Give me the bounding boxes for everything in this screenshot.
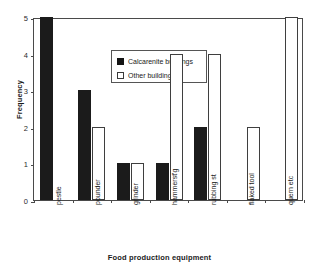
y-tick-label: 4 bbox=[14, 52, 28, 60]
x-tick-label: pounder bbox=[94, 179, 101, 205]
x-axis-title: Food production equipment bbox=[0, 253, 319, 262]
x-tick-mark bbox=[304, 200, 305, 203]
x-tick-mark bbox=[73, 200, 74, 203]
bar-quernetc-other bbox=[285, 17, 298, 200]
x-tick-mark bbox=[188, 200, 189, 203]
legend-label-other: Other buildings bbox=[128, 72, 175, 79]
chart-legend: Calcarenite buildings Other buildings bbox=[111, 50, 207, 83]
y-tick-label: 0 bbox=[14, 198, 28, 206]
y-tick-mark bbox=[31, 129, 34, 130]
x-tick-label: hammerst'g bbox=[171, 169, 178, 205]
y-tick-mark bbox=[31, 56, 34, 57]
x-tick-label: pestle bbox=[55, 186, 62, 205]
bar-pestle-calcarenite bbox=[40, 17, 53, 200]
x-tick-mark bbox=[111, 200, 112, 203]
y-tick-label: 1 bbox=[14, 161, 28, 169]
y-tick-label: 3 bbox=[14, 88, 28, 96]
bar-rubbingst-calcarenite bbox=[194, 127, 207, 200]
plot-area: Calcarenite buildings Other buildings 01… bbox=[33, 18, 303, 201]
legend-label-calcarenite: Calcarenite buildings bbox=[128, 58, 193, 65]
x-tick-label: rubbing st bbox=[210, 174, 217, 205]
x-tick-mark bbox=[227, 200, 228, 203]
y-tick-mark bbox=[31, 19, 34, 20]
bar-chart-figure: Frequency Calcarenite buildings Other bu… bbox=[0, 0, 319, 272]
bar-pounder-calcarenite bbox=[78, 90, 91, 200]
legend-item-other: Other buildings bbox=[117, 69, 201, 81]
bar-grinder-calcarenite bbox=[117, 163, 130, 200]
legend-swatch-other bbox=[117, 72, 124, 79]
y-tick-label: 2 bbox=[14, 125, 28, 133]
x-tick-mark bbox=[150, 200, 151, 203]
y-tick-mark bbox=[31, 92, 34, 93]
x-tick-label: flaked tool bbox=[248, 173, 255, 205]
x-tick-mark bbox=[34, 200, 35, 203]
bar-hammerstg-calcarenite bbox=[156, 163, 169, 200]
y-tick-mark bbox=[31, 165, 34, 166]
y-tick-label: 5 bbox=[14, 15, 28, 23]
x-tick-label: quern etc bbox=[287, 176, 294, 205]
legend-swatch-calcarenite bbox=[117, 58, 124, 65]
x-tick-mark bbox=[265, 200, 266, 203]
legend-item-calcarenite: Calcarenite buildings bbox=[117, 55, 201, 67]
x-tick-label: grinder bbox=[132, 183, 139, 205]
